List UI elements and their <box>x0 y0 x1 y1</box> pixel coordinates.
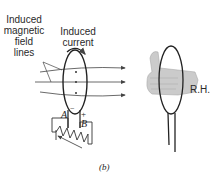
field-lines-label: Induced magnetic field lines <box>2 14 46 58</box>
field-lines <box>35 68 125 97</box>
figure-canvas: Induced magnetic field lines Induced cur… <box>0 0 217 182</box>
induced-current-label: Induced current <box>58 26 98 48</box>
right-hand-label: R.H. <box>190 84 210 95</box>
label-leaders <box>43 62 62 82</box>
figure-caption: (b) <box>99 162 110 172</box>
right-loop <box>159 46 183 152</box>
plus-sign: + <box>81 109 86 119</box>
terminal-a-label: A <box>61 109 67 120</box>
terminal-b-label: B <box>81 118 87 129</box>
minus-sign: − <box>70 104 75 113</box>
